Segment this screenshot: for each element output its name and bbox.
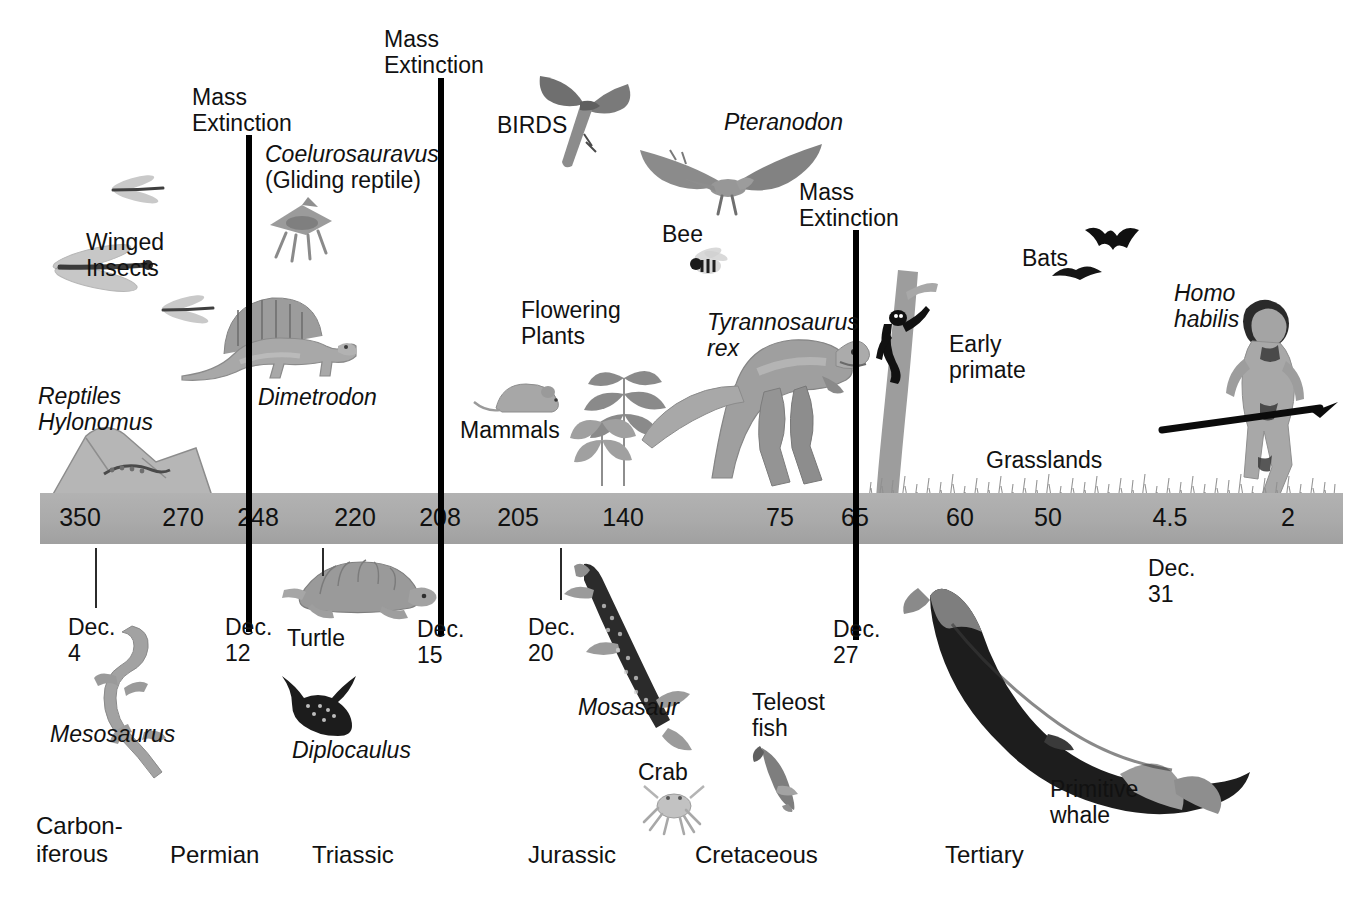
dimetrodon-icon [180, 280, 360, 400]
annotation-diplocaulus: Diplocaulus [292, 738, 411, 764]
teleost-fish-icon [748, 742, 808, 812]
axis-tick-2: 2 [1281, 503, 1295, 532]
leader-tick-turtle [322, 548, 324, 576]
annotation-reptiles-hylonomus: Reptiles Hylonomus [38, 384, 153, 436]
annotation-homo-habilis: Homo habilis [1174, 281, 1239, 333]
annotation-crab: Crab [638, 760, 688, 786]
annotation-coelurosauravus: Coelurosauravus(Gliding reptile) [265, 142, 439, 194]
leader-tick-dec4 [95, 548, 97, 608]
crab-icon [640, 780, 710, 836]
diplocaulus-icon [276, 672, 372, 738]
period-jurassic: Jurassic [528, 841, 616, 869]
annotation-early-primate: Early primate [949, 332, 1026, 384]
annotation-mammals: Mammals [460, 418, 560, 444]
annotation-bee: Bee [662, 222, 703, 248]
mass-extinction-line-248 [246, 135, 252, 632]
axis-tick-248: 248 [237, 503, 279, 532]
timeline-bar [40, 493, 1343, 544]
mass-extinction-label-65: Mass Extinction [799, 180, 899, 232]
coelurosauravus-icon [262, 195, 342, 265]
period-permian: Permian [170, 841, 259, 869]
mass-extinction-label-208: Mass Extinction [384, 27, 484, 79]
annotation-flowering-plants: Flowering Plants [521, 298, 621, 350]
annotation-teleost-fish: Teleost fish [752, 690, 825, 742]
coelurosauravus-genus: Coelurosauravus [265, 141, 439, 167]
annotation-birds: BIRDS [497, 113, 567, 139]
axis-tick-4.5: 4.5 [1153, 503, 1188, 532]
period-triassic: Triassic [312, 841, 394, 869]
annotation-turtle: Turtle [287, 626, 345, 652]
mass-extinction-label-248: Mass Extinction [192, 85, 292, 137]
calendar-mark-dec20: Dec. 20 [528, 615, 575, 667]
axis-tick-270: 270 [162, 503, 204, 532]
annotation-bats: Bats [1022, 246, 1068, 272]
period-cretaceous: Cretaceous [695, 841, 818, 869]
axis-tick-75: 75 [766, 503, 794, 532]
annotation-grasslands: Grasslands [986, 448, 1102, 474]
dragonfly-small-icon [105, 170, 171, 210]
axis-tick-205: 205 [497, 503, 539, 532]
calendar-mark-dec12: Dec. 12 [225, 615, 272, 667]
mass-extinction-line-65 [853, 230, 859, 640]
annotation-dimetrodon: Dimetrodon [258, 385, 377, 411]
annotation-tyrannosaurus-rex: Tyrannosaurus rex [707, 310, 859, 362]
pteranodon-icon [636, 140, 826, 230]
timeline-figure: 350 270 248 220 208 205 140 75 65 60 50 … [0, 0, 1371, 902]
annotation-winged-insects: Winged Insects [86, 230, 164, 282]
axis-tick-350: 350 [59, 503, 101, 532]
annotation-mesosaurus: Mesosaurus [50, 722, 175, 748]
axis-tick-220: 220 [334, 503, 376, 532]
period-tertiary: Tertiary [945, 841, 1024, 869]
calendar-mark-dec15: Dec. 15 [417, 617, 464, 669]
spear-icon [1160, 398, 1340, 434]
bee-icon [688, 246, 732, 280]
annotation-primitive-whale: Primitive whale [1050, 777, 1138, 829]
axis-tick-140: 140 [602, 503, 644, 532]
mosasaur-icon [560, 560, 740, 750]
period-carboniferous: Carbon- iferous [36, 812, 123, 867]
bat-icon [1083, 224, 1147, 260]
annotation-mosasaur: Mosasaur [578, 695, 679, 721]
axis-tick-50: 50 [1034, 503, 1062, 532]
annotation-pteranodon: Pteranodon [724, 110, 843, 136]
calendar-mark-dec4: Dec. 4 [68, 615, 115, 667]
axis-tick-60: 60 [946, 503, 974, 532]
coelurosauravus-common: (Gliding reptile) [265, 167, 421, 193]
mammal-icon [472, 372, 568, 418]
calendar-mark-dec27: Dec. 27 [833, 617, 880, 669]
leader-tick-dec20 [560, 548, 562, 600]
calendar-mark-dec31: Dec. 31 [1148, 556, 1195, 608]
